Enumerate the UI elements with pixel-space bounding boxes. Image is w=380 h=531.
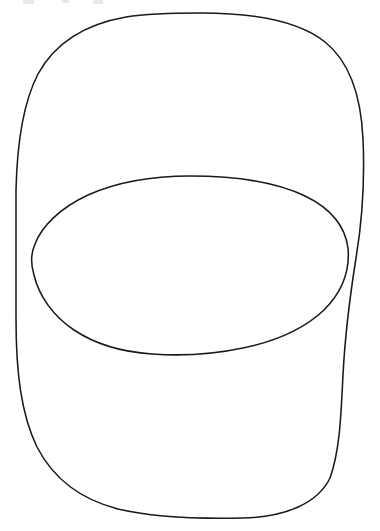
top-edge-artifact-1 bbox=[23, 0, 34, 4]
canvas-background bbox=[0, 0, 380, 531]
drawing-canvas: Line drawing: a large tall rounded close… bbox=[0, 0, 380, 531]
top-edge-artifact-3 bbox=[93, 0, 103, 4]
two-overlapping-closed-curves-figure bbox=[0, 0, 380, 531]
top-edge-artifact-2 bbox=[62, 0, 69, 3]
